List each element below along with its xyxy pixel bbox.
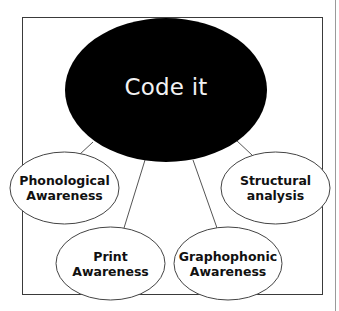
connector-print xyxy=(124,160,145,228)
structural-node-line2: analysis xyxy=(247,188,304,203)
graphophonic-node-line2: Awareness xyxy=(190,264,267,279)
diagram-canvas: Code it Phonological Awareness Print Awa… xyxy=(0,0,339,311)
center-node-label: Code it xyxy=(65,18,267,162)
connector-graphophonic xyxy=(193,160,217,228)
graphophonic-node-line1: Graphophonic xyxy=(179,249,277,264)
print-node-line1: Print xyxy=(93,249,128,264)
phonological-node-line2: Awareness xyxy=(26,188,103,203)
structural-node: Structural analysis xyxy=(221,152,330,224)
phonological-node: Phonological Awareness xyxy=(10,152,119,224)
print-node-line2: Awareness xyxy=(72,264,149,279)
structural-node-line1: Structural xyxy=(240,173,311,188)
print-node: Print Awareness xyxy=(56,227,165,300)
phonological-node-line1: Phonological xyxy=(19,173,109,188)
graphophonic-node: Graphophonic Awareness xyxy=(174,227,282,300)
